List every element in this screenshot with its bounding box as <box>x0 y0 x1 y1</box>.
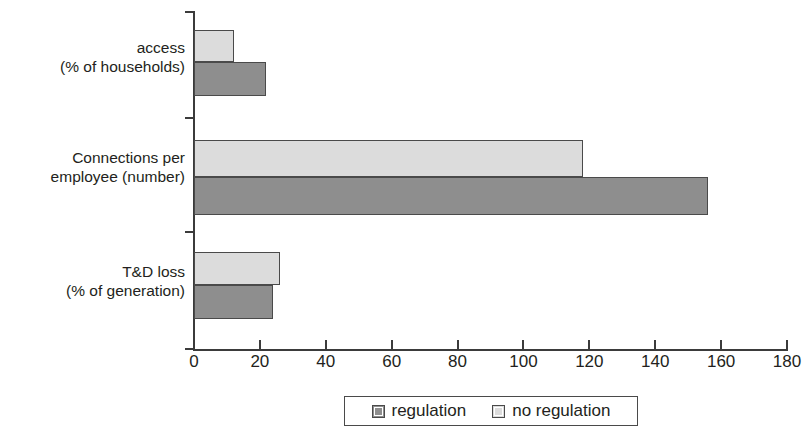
x-axis-tick <box>457 340 459 350</box>
legend-label-regulation: regulation <box>392 401 467 421</box>
x-axis-tick-label: 40 <box>316 352 335 372</box>
x-axis-tick <box>654 340 656 350</box>
category-label-line2: (% of generation) <box>0 281 185 300</box>
x-axis-tick-label: 60 <box>382 352 401 372</box>
bar-access-regulation <box>194 62 266 96</box>
bar-connections-no-regulation <box>194 140 583 177</box>
x-axis-tick-label: 160 <box>707 352 735 372</box>
x-axis-tick-label: 20 <box>250 352 269 372</box>
x-axis-tick <box>522 340 524 350</box>
bar-td-loss-no-regulation <box>194 252 280 285</box>
x-axis-tick-label: 180 <box>773 352 801 372</box>
x-axis-tick-label: 100 <box>509 352 537 372</box>
x-axis-tick-label: 140 <box>641 352 669 372</box>
x-axis-tick <box>786 340 788 350</box>
y-axis-tick <box>185 117 194 119</box>
bar-td-loss-regulation <box>194 285 273 319</box>
y-axis-tick <box>185 11 194 13</box>
legend: regulation no regulation <box>344 396 638 426</box>
category-label-line2: (% of households) <box>0 57 185 76</box>
legend-swatch-no-regulation-icon <box>492 405 505 418</box>
legend-item-no-regulation[interactable]: no regulation <box>492 401 610 421</box>
x-axis-tick-label: 80 <box>448 352 467 372</box>
category-label-line1: access <box>0 38 185 57</box>
x-axis-tick <box>588 340 590 350</box>
x-axis-line <box>193 349 788 351</box>
x-axis-tick <box>193 340 195 350</box>
bar-access-no-regulation <box>194 30 234 62</box>
category-label-line1: T&D loss <box>0 262 185 281</box>
category-label-td-loss: T&D loss (% of generation) <box>0 262 185 300</box>
legend-swatch-regulation-icon <box>372 405 385 418</box>
legend-item-regulation[interactable]: regulation <box>372 401 467 421</box>
category-label-line1: Connections per <box>0 148 185 167</box>
y-axis-tick <box>185 231 194 233</box>
x-axis-tick <box>391 340 393 350</box>
legend-label-no-regulation: no regulation <box>512 401 610 421</box>
category-label-access: access (% of households) <box>0 38 185 76</box>
bar-connections-regulation <box>194 177 708 215</box>
category-label-line2: employee (number) <box>0 167 185 186</box>
x-axis-tick <box>720 340 722 350</box>
x-axis-tick-label: 0 <box>189 352 198 372</box>
x-axis-tick <box>325 340 327 350</box>
x-axis-tick <box>259 340 261 350</box>
category-label-connections-per-employee: Connections per employee (number) <box>0 148 185 186</box>
x-axis-tick-label: 120 <box>575 352 603 372</box>
